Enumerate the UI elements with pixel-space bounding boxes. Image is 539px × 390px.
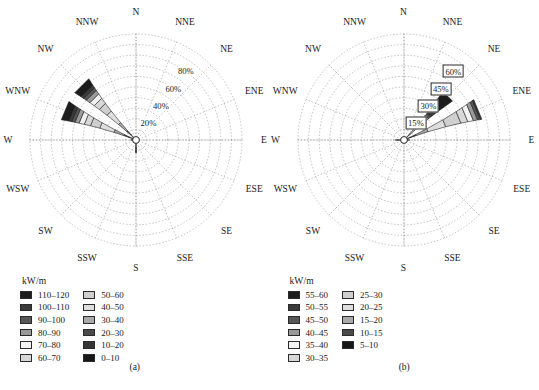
legend-swatch xyxy=(288,291,300,299)
legend-label: 55–60 xyxy=(306,290,329,300)
legend-label: 10–20 xyxy=(101,340,124,350)
direction-label-wnw: WNW xyxy=(273,86,298,96)
wind-rose-figure: NNNENEENEEESESESSESSSWSWWSWWWNWNWNNW20%4… xyxy=(0,0,539,390)
rose-petal-segment xyxy=(415,129,428,136)
legend-item[interactable]: 30–40 xyxy=(83,314,124,327)
legend-title-a: kW/m xyxy=(22,276,260,286)
legend-item[interactable]: 50–55 xyxy=(288,301,329,314)
legend-swatch xyxy=(20,291,32,299)
rose-chart-a: NNNENEENEEESESESSESSSWSWWSWWWNWNWNNW20%4… xyxy=(0,0,270,282)
direction-label-ene: ENE xyxy=(245,86,263,96)
legend-swatch xyxy=(83,354,95,362)
legend-swatch xyxy=(83,291,95,299)
legend-item[interactable]: 110–120 xyxy=(20,289,69,302)
radial-tick-label: 80% xyxy=(177,66,194,76)
legend-swatch xyxy=(20,316,32,324)
legend-item[interactable]: 40–45 xyxy=(288,326,329,339)
rose-petal-segment xyxy=(129,137,132,139)
direction-label-sw: SW xyxy=(38,226,52,236)
legend-item[interactable]: 25–30 xyxy=(342,289,383,302)
direction-label-ese: ESE xyxy=(246,184,263,194)
direction-label-nnw: NNW xyxy=(76,17,99,27)
legend-label: 50–55 xyxy=(306,302,329,312)
legend-swatch xyxy=(342,316,354,324)
direction-label-nw: NW xyxy=(305,44,321,54)
direction-label-wnw: WNW xyxy=(5,86,30,96)
legend-swatch xyxy=(83,341,95,349)
legend-item[interactable]: 80–90 xyxy=(20,326,69,339)
caption-a: (a) xyxy=(0,362,270,372)
legend-swatch xyxy=(20,354,32,362)
legend-label: 50–60 xyxy=(101,290,124,300)
legend-label: 45–50 xyxy=(306,315,329,325)
rose-svg-a xyxy=(0,0,270,282)
direction-label-ne: NE xyxy=(488,44,501,54)
legend-item[interactable]: 10–15 xyxy=(342,326,383,339)
direction-label-nw: NW xyxy=(38,44,54,54)
caption-b: (b) xyxy=(270,362,539,372)
legend-swatch xyxy=(288,316,300,324)
direction-label-ese: ESE xyxy=(513,184,530,194)
direction-label-w: W xyxy=(4,135,13,145)
legend-item[interactable]: 5–10 xyxy=(342,339,383,352)
legend-swatch xyxy=(83,316,95,324)
legend-item[interactable]: 20–30 xyxy=(83,326,124,339)
direction-label-n: N xyxy=(400,7,407,17)
legend-item[interactable]: 50–60 xyxy=(83,289,124,302)
legend-label: 5–10 xyxy=(360,340,378,350)
rose-petal-segment xyxy=(114,130,125,136)
panel-a: NNNENEENEEESESESSESSSWSWWSWWWNWNWNNW20%4… xyxy=(0,0,270,390)
legend-label: 25–30 xyxy=(360,290,383,300)
rose-petal-segment xyxy=(135,148,136,152)
direction-label-nne: NNE xyxy=(443,17,463,27)
legend-swatch xyxy=(20,341,32,349)
legend-item[interactable]: 10–20 xyxy=(83,339,124,352)
legend-column-left-a: 110–120100–11090–10080–9070–8060–70 xyxy=(20,289,69,365)
legend-label: 35–40 xyxy=(306,340,329,350)
legend-item[interactable]: 90–100 xyxy=(20,314,69,327)
direction-label-s: S xyxy=(401,263,406,273)
radial-tick-label: 60% xyxy=(165,84,182,94)
legend-b: kW/m 55–6050–5545–5040–4535–4030–35 25–3… xyxy=(288,276,528,364)
direction-label-ne: NE xyxy=(220,44,233,54)
legend-item[interactable]: 55–60 xyxy=(288,289,329,302)
legend-a: kW/m 110–120100–11090–10080–9070–8060–70… xyxy=(20,276,260,364)
legend-label: 40–50 xyxy=(101,302,124,312)
legend-item[interactable]: 20–25 xyxy=(342,301,383,314)
direction-label-wsw: WSW xyxy=(274,184,297,194)
legend-label: 30–40 xyxy=(101,315,124,325)
legend-label: 70–80 xyxy=(38,340,61,350)
legend-swatch xyxy=(342,341,354,349)
direction-label-nne: NNE xyxy=(175,17,195,27)
legend-column-left-b: 55–6050–5545–5040–4535–4030–35 xyxy=(288,289,329,365)
radial-tick-label: 20% xyxy=(140,118,157,128)
legend-label: 100–110 xyxy=(38,302,69,312)
legend-label: 110–120 xyxy=(38,290,69,300)
legend-label: 15–20 xyxy=(360,315,383,325)
legend-swatch xyxy=(342,304,354,312)
direction-label-sse: SSE xyxy=(444,253,460,263)
direction-label-sw: SW xyxy=(306,226,320,236)
legend-label: 20–25 xyxy=(360,302,383,312)
legend-item[interactable]: 45–50 xyxy=(288,314,329,327)
legend-label: 20–30 xyxy=(101,328,124,338)
legend-swatch xyxy=(83,329,95,337)
legend-swatch xyxy=(20,304,32,312)
direction-label-se: SE xyxy=(488,226,499,236)
rose-petal-segment xyxy=(100,123,115,133)
direction-label-ssw: SSW xyxy=(77,253,97,263)
legend-item[interactable]: 100–110 xyxy=(20,301,69,314)
direction-label-wsw: WSW xyxy=(6,184,29,194)
legend-swatch xyxy=(288,304,300,312)
rose-petal-segment xyxy=(406,134,409,137)
radial-tick-label: 40% xyxy=(153,101,170,111)
legend-label: 80–90 xyxy=(38,328,61,338)
legend-item[interactable]: 15–20 xyxy=(342,314,383,327)
legend-item[interactable]: 70–80 xyxy=(20,339,69,352)
rose-svg-b xyxy=(270,0,539,282)
legend-item[interactable]: 35–40 xyxy=(288,339,329,352)
legend-column-right-a: 50–6040–5030–4020–3010–200–10 xyxy=(83,289,124,365)
legend-item[interactable]: 40–50 xyxy=(83,301,124,314)
legend-column-right-b: 25–3020–2515–2010–155–10 xyxy=(342,289,383,365)
legend-swatch xyxy=(288,329,300,337)
